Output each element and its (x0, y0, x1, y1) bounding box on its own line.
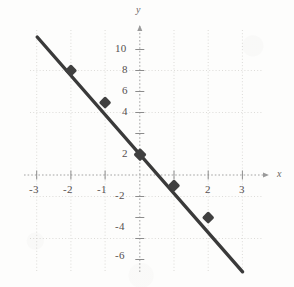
y-tick-label-neg2: -2 (115, 189, 125, 201)
coordinate-plane (0, 0, 294, 287)
y-tick-label-10: 10 (115, 42, 127, 54)
x-tick-label-2: 2 (205, 183, 211, 195)
x-axis-label: x (277, 168, 281, 179)
y-tick-label-neg6: -6 (115, 249, 125, 261)
x-tick-label-3: 3 (239, 183, 245, 195)
y-tick-label-4: 4 (122, 105, 128, 117)
y-tick-label-6: 6 (122, 84, 128, 96)
y-tick-label-neg4: -4 (115, 220, 125, 232)
x-tick-label-neg2: -2 (63, 183, 73, 195)
x-tick-label-neg1: -1 (97, 183, 107, 195)
y-tick-label-2: 2 (122, 147, 128, 159)
y-axis-label: y (136, 4, 140, 15)
x-tick-label-neg3: -3 (29, 183, 39, 195)
data-point (65, 64, 78, 77)
data-point (202, 211, 215, 224)
graph-figure: 10 8 6 4 2 -2 -4 -6 -3 -2 -1 2 3 x y (0, 0, 294, 287)
y-tick-label-8: 8 (122, 63, 128, 75)
